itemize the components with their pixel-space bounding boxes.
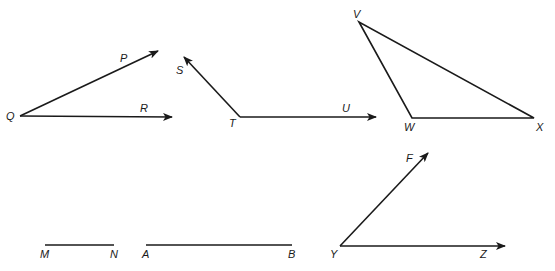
point-label-u: U — [342, 102, 350, 114]
point-label-a: A — [141, 248, 149, 260]
triangle-shape — [359, 22, 534, 118]
angle-FYZ: FZY — [330, 152, 505, 260]
segment-AB: AB — [141, 245, 295, 260]
point-label-q: Q — [6, 110, 15, 122]
point-label-x: X — [535, 121, 544, 133]
ray-qr — [20, 116, 172, 117]
point-label-w: W — [404, 121, 416, 133]
figures-group: PRQSUTVWXMNABFZY — [6, 8, 544, 260]
point-label-n: N — [110, 248, 118, 260]
point-label-z: Z — [479, 248, 488, 260]
angle-STU: SUT — [176, 57, 376, 129]
point-label-f: F — [406, 152, 414, 164]
point-label-v: V — [353, 8, 362, 20]
point-label-r: R — [140, 102, 148, 114]
point-label-b: B — [288, 248, 295, 260]
angle-PQR: PRQ — [6, 51, 172, 122]
point-label-y: Y — [330, 248, 338, 260]
ray-qp — [20, 51, 158, 116]
point-label-p: P — [120, 52, 128, 64]
point-label-s: S — [176, 64, 184, 76]
point-label-m: M — [40, 248, 50, 260]
geometry-diagram: PRQSUTVWXMNABFZY — [0, 0, 555, 271]
ray-yf — [340, 153, 428, 246]
triangle-VWX: VWX — [353, 8, 544, 133]
segment-MN: MN — [40, 245, 118, 260]
ray-ts — [184, 57, 240, 117]
point-label-t: T — [229, 117, 237, 129]
